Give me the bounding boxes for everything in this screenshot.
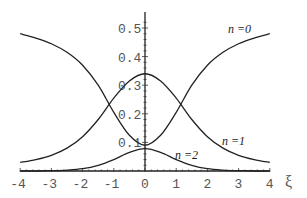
label-n0: n =0 — [228, 22, 251, 36]
y-tick-label: 0.5 — [118, 22, 141, 37]
x-tick-label: -2 — [73, 177, 89, 192]
y-tick-label: 0.4 — [118, 51, 142, 66]
x-tick-label: 2 — [203, 177, 211, 192]
x-axis-label: ξ — [285, 173, 292, 190]
x-tick-label: -4 — [10, 177, 26, 192]
x-tick-label: 4 — [266, 177, 274, 192]
x-tick-label: 1 — [172, 177, 180, 192]
label-n2: n =2 — [175, 148, 198, 162]
label-n1: n =1 — [222, 134, 245, 148]
chart-plot: -4-3-2-1012340.10.20.30.40.5 n =0 n =1 n… — [0, 0, 307, 198]
y-tick-label: 0.2 — [118, 108, 141, 123]
axes: -4-3-2-1012340.10.20.30.40.5 — [10, 12, 274, 192]
x-tick-label: 0 — [141, 177, 149, 192]
x-tick-label: -1 — [104, 177, 120, 192]
x-tick-label: 3 — [235, 177, 243, 192]
x-tick-label: -3 — [41, 177, 57, 192]
